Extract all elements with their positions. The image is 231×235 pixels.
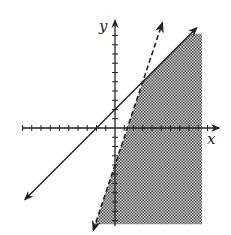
graph: x y (0, 0, 231, 235)
x-axis-label: x (207, 130, 216, 148)
y-axis-label: y (98, 17, 108, 35)
